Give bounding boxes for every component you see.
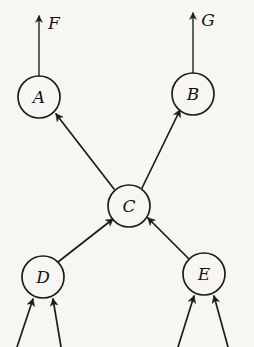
node-a[interactable]: A	[18, 76, 60, 118]
node-b[interactable]: B	[172, 73, 214, 115]
node-c-label: C	[122, 196, 135, 216]
edge-c-to-b	[142, 110, 180, 188]
node-e[interactable]: E	[183, 253, 225, 295]
output-label-f: F	[47, 13, 61, 33]
output-label-g: G	[201, 10, 215, 30]
input-arrow-d-left	[17, 299, 33, 347]
node-b-label: B	[186, 84, 200, 104]
edge-e-to-c	[148, 218, 190, 260]
node-a-label: A	[31, 87, 45, 107]
edge-c-to-a	[56, 114, 114, 189]
node-d[interactable]: D	[22, 256, 64, 298]
graph-svg: A B C D E F G	[0, 0, 254, 347]
diagram-canvas: A B C D E F G	[0, 0, 254, 347]
node-d-label: D	[35, 267, 50, 287]
input-arrow-group-e	[178, 296, 228, 347]
node-e-label: E	[197, 264, 211, 284]
input-arrow-d-right	[53, 299, 61, 347]
input-arrow-group-d	[17, 299, 61, 347]
output-arrow-group	[39, 13, 193, 76]
edge-d-to-c	[58, 219, 113, 262]
input-arrow-e-right	[214, 296, 228, 347]
node-c[interactable]: C	[108, 185, 150, 227]
input-arrow-e-left	[178, 296, 194, 347]
